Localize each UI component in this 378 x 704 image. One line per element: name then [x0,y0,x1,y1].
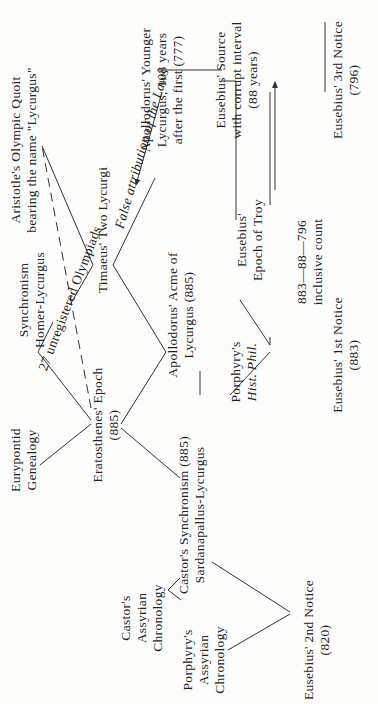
line-timaeus-apollodorus-acme [113,265,166,352]
svg-text:Chronology: Chronology [212,626,227,694]
node-castor-synchronism: Castor's Synchronism (885) Sardanapallus… [176,436,207,594]
diagram-svg: Aristotle's Olympic Quoit bearing the na… [0,0,378,704]
chronology-diagram: Aristotle's Olympic Quoit bearing the na… [0,0,378,704]
node-porphyry-hist: Porphyry's Hist. Phil. [228,342,259,403]
svg-text:Assyrian: Assyrian [196,635,211,685]
svg-text:(885): (885) [106,410,121,441]
line-eurypontid-eratosthenes [40,424,91,465]
node-eusebius-2nd: Eusebius' 2nd Notice (820) [301,580,332,700]
svg-text:Lycurgus (885): Lycurgus (885) [181,272,196,359]
svg-text:Castor's Synchronism (885): Castor's Synchronism (885) [176,436,191,594]
node-castor-assyrian: Castor's Assyrian Chronology [118,584,165,652]
svg-text:Timaeus' Two Lycurgi: Timaeus' Two Lycurgi [95,167,110,294]
svg-text:Eusebius' 3rd Notice: Eusebius' 3rd Notice [330,21,345,139]
node-eusebius-1st: Eusebius' 1st Notice (883) [330,297,361,413]
node-aristotle: Aristotle's Olympic Quoit bearing the na… [8,67,39,232]
line-porphyry-assyrian-eusebius2 [228,614,290,650]
svg-text:Apollodorus' Acme of: Apollodorus' Acme of [165,252,180,378]
svg-text:(883): (883) [346,340,361,371]
svg-text:883—88—796: 883—88—796 [294,220,309,304]
svg-text:(820): (820) [317,625,332,656]
node-eusebius-source: Eusebius' Source with corrupt interval (… [213,21,260,138]
svg-text:(796): (796) [346,65,361,96]
svg-text:Genealogy: Genealogy [24,429,39,490]
svg-text:Eratosthenes' Epoch: Eratosthenes' Epoch [90,368,105,483]
svg-text:Aristotle's Olympic Quoit: Aristotle's Olympic Quoit [8,76,23,223]
svg-text:bearing the name "Lycurgus": bearing the name "Lycurgus" [24,67,39,232]
line-troy-eusebius1 [240,300,270,345]
node-eurypontid: Eurypontid Genealogy [8,428,39,492]
svg-text:with corrupt interval: with corrupt interval [229,21,244,138]
line-eratosthenes-castor [121,428,180,478]
svg-text:Eusebius' 1st Notice: Eusebius' 1st Notice [330,297,345,413]
svg-text:Hist. Phil.: Hist. Phil. [244,343,259,402]
svg-text:after the first (777): after the first (777) [170,36,185,145]
svg-text:Porphyry's: Porphyry's [228,342,243,403]
svg-text:Eusebius' Source: Eusebius' Source [213,32,228,129]
svg-text:Synchronism: Synchronism [16,263,31,338]
svg-text:Epoch of Troy: Epoch of Troy [250,199,265,281]
svg-text:Castor's: Castor's [118,595,133,640]
svg-text:Eusebius' 2nd Notice: Eusebius' 2nd Notice [301,580,316,700]
node-synchronism-homer: Synchronism Homer-Lycurgus [16,252,47,348]
svg-text:Assyrian: Assyrian [134,593,149,643]
line-castor-synch-eusebius2 [212,562,290,612]
svg-text:Chronology: Chronology [150,584,165,652]
svg-text:Homer-Lycurgus: Homer-Lycurgus [32,252,47,348]
node-eratosthenes: Eratosthenes' Epoch (885) [90,368,121,483]
svg-text:Eurypontid: Eurypontid [8,428,23,492]
node-inclusive-count: 883—88—796 inclusive count [294,219,325,306]
node-timaeus: Timaeus' Two Lycurgi [95,167,110,294]
line-eratosthenes-apollodorus-acme [121,352,166,424]
node-apollodorus-acme: Apollodorus' Acme of Lycurgus (885) [165,252,196,378]
node-porphyry-assyrian: Porphyry's Assyrian Chronology [180,626,227,694]
node-eusebius-3rd: Eusebius' 3rd Notice (796) [330,21,361,139]
svg-text:Sardanapallus-Lycurgus: Sardanapallus-Lycurgus [192,447,207,584]
svg-text:inclusive count: inclusive count [310,219,325,306]
svg-text:Eusebius': Eusebius' [234,213,249,267]
svg-text:Porphyry's: Porphyry's [180,630,195,691]
svg-text:(88 years): (88 years) [245,51,260,108]
node-eusebius-troy: Eusebius' Epoch of Troy [234,199,265,281]
